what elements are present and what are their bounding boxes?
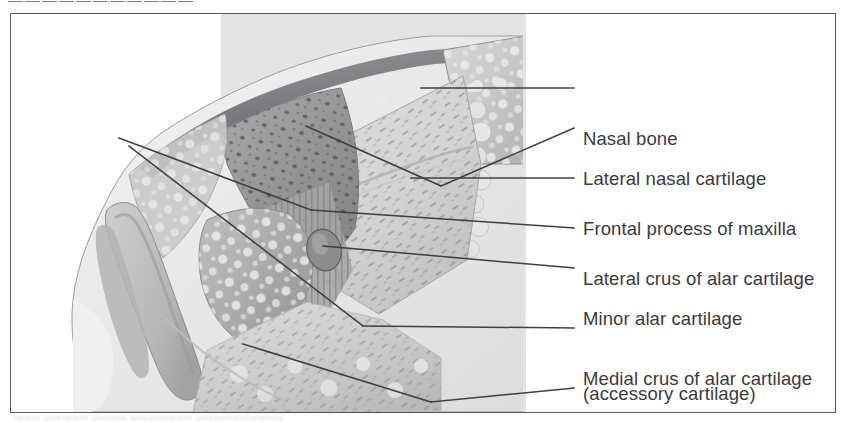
label-list: Nasal bone Lateral nasal cartilage Front… — [11, 14, 836, 412]
bottom-caption-remnant: ░░░ ░░░░░ ░░░░ ░░░░░░░ ░░░░░░░░░░ — [10, 415, 836, 423]
label-fatty-tissue: Fatty tissue — [583, 376, 679, 413]
caption-remnant-text: ░░░ ░░░░░ ░░░░ ░░░░░░░ ░░░░░░░░░░ — [14, 415, 284, 421]
figure-frame: Nasal bone Lateral nasal cartilage Front… — [10, 13, 836, 413]
top-clipped-remnant: ——————————— — [0, 0, 846, 12]
top-remnant-text: ——————————— — [8, 0, 195, 8]
